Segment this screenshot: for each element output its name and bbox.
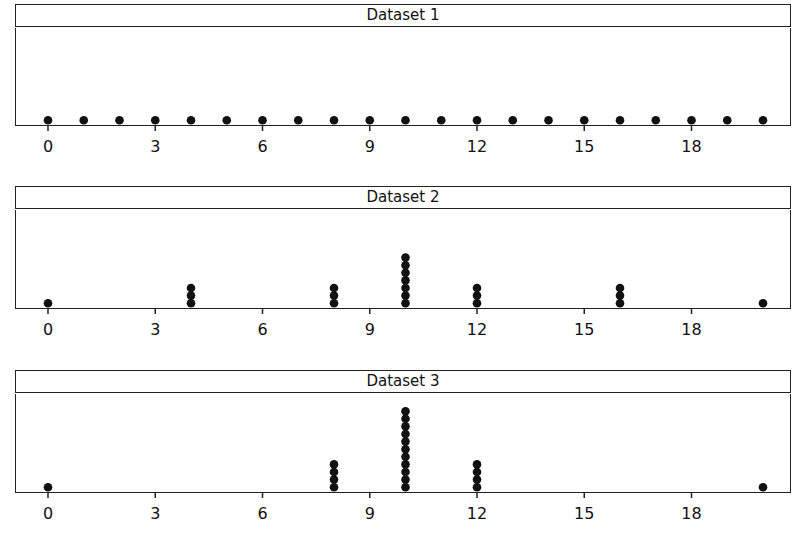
data-dot <box>401 460 410 469</box>
data-dot <box>44 299 53 308</box>
data-dot <box>401 453 410 462</box>
data-dot <box>330 475 339 484</box>
data-dot <box>759 116 768 125</box>
data-dot <box>330 460 339 469</box>
data-dot <box>187 116 196 125</box>
data-dot <box>473 460 482 469</box>
data-dot <box>330 284 339 293</box>
x-axis-tick-label: 15 <box>574 504 594 523</box>
data-dot <box>401 299 410 308</box>
x-axis-tick-label: 9 <box>365 137 375 156</box>
data-dot <box>330 116 339 125</box>
data-dot <box>508 116 517 125</box>
data-dot <box>580 116 589 125</box>
data-dot <box>473 475 482 484</box>
data-dot <box>187 284 196 293</box>
data-dot <box>151 116 160 125</box>
data-dot <box>723 116 732 125</box>
x-axis-tick-label: 6 <box>257 320 267 339</box>
data-dot <box>401 407 410 416</box>
data-dot <box>44 116 53 125</box>
x-axis-tick-label: 9 <box>365 504 375 523</box>
data-dot <box>258 116 267 125</box>
data-dot <box>651 116 660 125</box>
x-axis-tick-label: 18 <box>681 320 701 339</box>
data-dot <box>79 116 88 125</box>
dataset-3-dots-and-axis: 0369121518 <box>15 370 791 530</box>
x-axis-tick-label: 3 <box>150 137 160 156</box>
x-axis-tick-label: 18 <box>681 137 701 156</box>
data-dot <box>44 483 53 492</box>
data-dot <box>616 291 625 300</box>
data-dot <box>401 422 410 431</box>
x-axis-tick-label: 0 <box>43 137 53 156</box>
data-dot <box>401 276 410 285</box>
data-dot <box>473 284 482 293</box>
data-dot <box>759 483 768 492</box>
x-axis-tick-label: 18 <box>681 504 701 523</box>
data-dot <box>115 116 124 125</box>
data-dot <box>616 284 625 293</box>
data-dot <box>401 261 410 270</box>
x-axis-tick-label: 12 <box>467 320 487 339</box>
data-dot <box>473 291 482 300</box>
x-axis-tick-label: 0 <box>43 320 53 339</box>
data-dot <box>401 468 410 477</box>
data-dot <box>187 291 196 300</box>
dataset-2-dots-and-axis: 0369121518 <box>15 186 791 346</box>
data-dot <box>401 253 410 262</box>
data-dot <box>401 269 410 278</box>
x-axis-tick-label: 6 <box>257 137 267 156</box>
data-dot <box>401 437 410 446</box>
x-axis-tick-label: 9 <box>365 320 375 339</box>
x-axis-tick-label: 0 <box>43 504 53 523</box>
x-axis-tick-label: 12 <box>467 137 487 156</box>
data-dot <box>401 445 410 454</box>
data-dot <box>437 116 446 125</box>
data-dot <box>222 116 231 125</box>
data-dot <box>330 468 339 477</box>
data-dot <box>401 116 410 125</box>
data-dot <box>365 116 374 125</box>
data-dot <box>294 116 303 125</box>
x-axis-tick-label: 3 <box>150 504 160 523</box>
data-dot <box>401 291 410 300</box>
data-dot <box>187 299 196 308</box>
data-dot <box>759 299 768 308</box>
data-dot <box>401 483 410 492</box>
data-dot <box>473 468 482 477</box>
data-dot <box>330 483 339 492</box>
x-axis-tick-label: 12 <box>467 504 487 523</box>
data-dot <box>401 415 410 424</box>
data-dot <box>687 116 696 125</box>
data-dot <box>401 430 410 439</box>
x-axis-tick-label: 15 <box>574 137 594 156</box>
data-dot <box>473 116 482 125</box>
dataset-1-dots-and-axis: 0369121518 <box>15 4 791 164</box>
data-dot <box>401 475 410 484</box>
data-dot <box>401 284 410 293</box>
x-axis-tick-label: 15 <box>574 320 594 339</box>
x-axis-tick-label: 3 <box>150 320 160 339</box>
x-axis-tick-label: 6 <box>257 504 267 523</box>
data-dot <box>616 299 625 308</box>
data-dot <box>544 116 553 125</box>
data-dot <box>616 116 625 125</box>
data-dot <box>330 291 339 300</box>
data-dot <box>473 483 482 492</box>
data-dot <box>330 299 339 308</box>
data-dot <box>473 299 482 308</box>
